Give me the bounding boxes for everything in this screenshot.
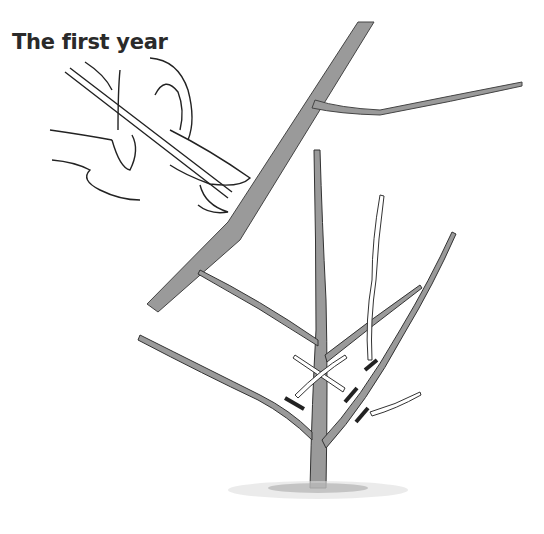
young-tree xyxy=(138,150,456,488)
hand-with-pruners-icon xyxy=(50,58,250,213)
ground xyxy=(228,481,408,499)
pale-shoots xyxy=(293,195,421,416)
pruning-illustration xyxy=(0,0,544,534)
cut-branch xyxy=(147,22,522,312)
